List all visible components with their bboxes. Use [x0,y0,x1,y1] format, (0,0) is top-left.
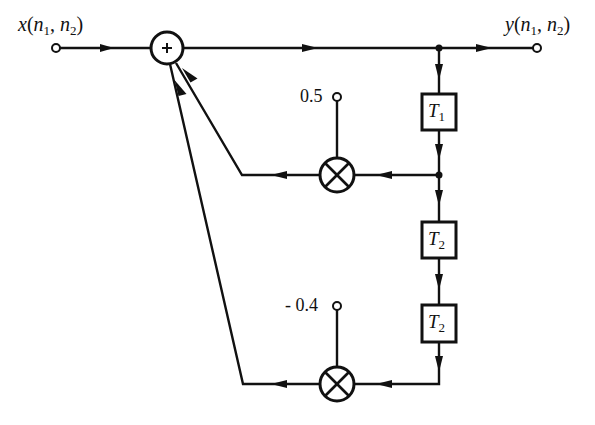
arrow-icon [271,171,287,179]
multiplier-icon [320,367,354,401]
coefficient-label-2: - 0.4 [285,295,318,316]
arrow-icon [376,380,392,388]
delay-line-4 [354,342,439,384]
delay-label-t2b: T2 [428,311,445,336]
arrow-icon [476,44,492,52]
summer-node [151,32,183,64]
arrow-icon [435,274,443,290]
arrow-icon [376,171,392,179]
arrow-icon [435,144,443,160]
output-label: y(n1, n2) [505,13,570,39]
feedback-1-out [176,63,320,175]
arrow-icon [100,44,114,52]
coef-terminal-2 [333,302,341,310]
junction-dot [436,45,443,52]
arrow-icon [271,380,287,388]
delay-label-t2a: T2 [428,228,445,253]
arrow-icon [435,356,443,372]
delay-label-t1: T1 [428,100,445,125]
multiplier-icon [320,158,354,192]
input-label: x(n1, n2) [18,13,83,39]
feedback-2-out [170,64,320,384]
arrow-icon [435,64,443,80]
junction-dot [436,172,443,179]
coefficient-label-1: 0.5 [300,86,323,107]
coef-terminal-1 [333,93,341,101]
block-diagram [0,0,595,425]
arrow-icon [435,190,443,206]
arrow-icon [302,44,318,52]
input-terminal [52,44,60,52]
output-terminal [533,44,541,52]
